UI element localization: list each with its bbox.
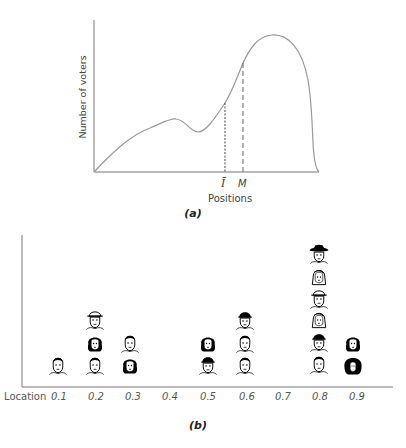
voter-face-icon (343, 355, 363, 376)
tick-label: 0.1 (51, 391, 67, 402)
voter-face-icon (235, 355, 255, 376)
tick-label: 0.9 (349, 391, 365, 402)
voter-face-icon (120, 333, 140, 354)
voter-face-icon (309, 354, 329, 375)
panel-b-caption: (b) (189, 419, 207, 432)
voter-face-icon (309, 289, 329, 310)
voter-face-icon (85, 355, 105, 376)
panel-a-caption: (a) (184, 207, 201, 220)
tick-label: 0.5 (200, 391, 216, 402)
x-axis-label: Positions (208, 193, 252, 204)
voter-face-icon (85, 333, 105, 354)
tick-label: 0.6 (239, 391, 255, 402)
location-label: Location (4, 391, 46, 402)
voter-face-icon (309, 267, 329, 288)
voter-face-icon (309, 244, 329, 265)
y-axis-label: Number of voters (77, 55, 88, 138)
voter-face-icon (343, 333, 363, 354)
voter-face-icon (198, 355, 218, 376)
tick-label: 0.2 (88, 391, 104, 402)
voter-face-icon (120, 355, 140, 376)
voter-face-icon (85, 310, 105, 331)
voter-face-icon (48, 355, 68, 376)
tick-label: 0.7 (275, 391, 291, 402)
voter-face-icon (198, 333, 218, 354)
voter-face-icon (235, 310, 255, 331)
mean-label: Ī (221, 177, 225, 190)
panel-a-plot (0, 0, 406, 448)
voter-face-icon (309, 310, 329, 331)
tick-label: 0.4 (162, 391, 178, 402)
tick-label: 0.8 (312, 391, 328, 402)
median-label: M (238, 178, 247, 189)
voter-face-icon (309, 332, 329, 353)
tick-label: 0.3 (125, 391, 141, 402)
distribution-curve (94, 35, 319, 172)
voter-face-icon (235, 333, 255, 354)
